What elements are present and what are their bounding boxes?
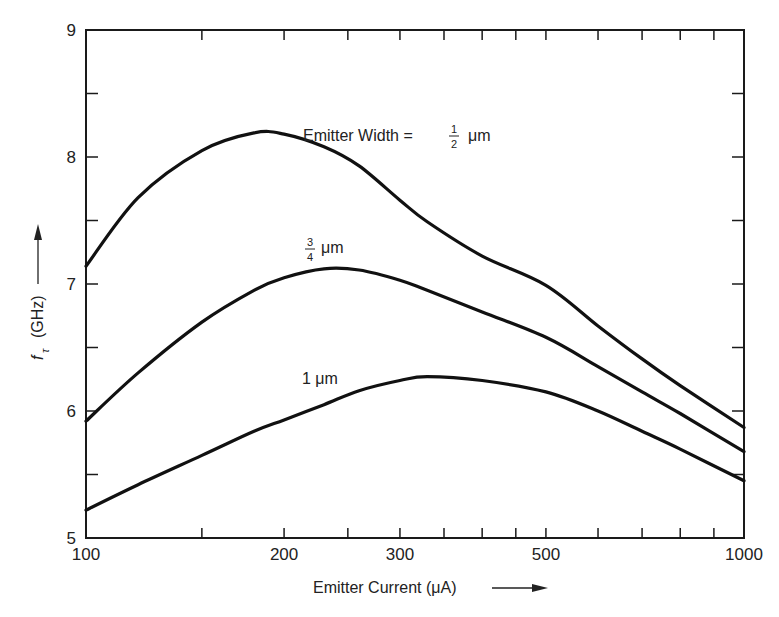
x-tick-label: 300: [386, 545, 414, 564]
annotation-half-um: Emitter Width = 1 2 μm: [303, 123, 491, 150]
axis-tick-labels: 100200300500100056789: [67, 21, 763, 564]
fraction-denominator: 2: [451, 138, 457, 150]
x-tick-label: 1000: [725, 545, 763, 564]
y-tick-label: 5: [67, 529, 76, 548]
data-series: [86, 131, 744, 510]
x-tick-label: 500: [532, 545, 560, 564]
series-half-um: [86, 131, 744, 427]
x-axis-label: Emitter Current (μA): [313, 579, 456, 596]
fraction-denominator: 4: [307, 251, 313, 263]
y-tick-label: 7: [67, 275, 76, 294]
y-tick-label: 9: [67, 21, 76, 40]
y-tick-label: 8: [67, 148, 76, 167]
fraction-numerator: 1: [451, 123, 457, 135]
annotation-unit: μm: [468, 127, 491, 144]
y-axis-label-f: f: [29, 354, 46, 360]
series-one-um: [86, 377, 744, 510]
annotation-unit: μm: [321, 239, 344, 256]
annotation-top-prefix: Emitter Width =: [303, 127, 413, 144]
y-axis-title: f τ (GHz): [29, 224, 51, 360]
x-axis-title: Emitter Current (μA): [313, 579, 548, 596]
annotation-one-um: 1 μm: [302, 370, 338, 387]
chart-figure: 100200300500100056789 Emitter Width = 1 …: [0, 0, 779, 617]
annotation-three-quarter-um: 3 4 μm: [305, 236, 344, 263]
x-tick-label: 200: [270, 545, 298, 564]
y-axis-label-sub: τ: [39, 348, 51, 353]
arrow-up-icon: [34, 224, 42, 240]
y-axis-label-unit: (GHz): [29, 295, 46, 338]
arrow-right-icon: [532, 584, 548, 592]
fraction-numerator: 3: [307, 236, 313, 248]
y-tick-label: 6: [67, 402, 76, 421]
x-tick-label: 100: [72, 545, 100, 564]
